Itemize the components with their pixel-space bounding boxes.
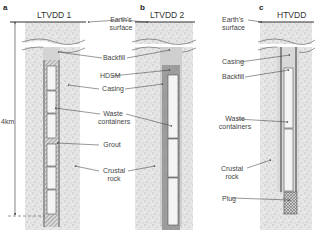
label-crustal-rock-ab: Crustalrock <box>100 167 128 183</box>
label-casing-ab: Casing <box>100 85 126 93</box>
depth-label: 4km <box>1 118 14 126</box>
diagram-canvas <box>0 0 325 233</box>
label-earth-surface-c: Earth'ssurface <box>222 16 245 32</box>
label-hdsm: HDSM <box>100 72 114 80</box>
panel-title-c: HTVDD <box>277 10 306 20</box>
panel-title-b: LTVDD 2 <box>150 10 184 20</box>
label-crustal-rock-c: Crustalrock <box>218 165 246 181</box>
panel-letter-c: c <box>259 3 263 12</box>
panel-letter-a: a <box>3 3 7 12</box>
panel-a-borehole <box>22 22 85 230</box>
label-waste-containers-c: Wastecontainers <box>218 115 252 131</box>
label-backfill-c: Backfill <box>222 73 244 81</box>
panel-b-borehole <box>132 22 196 230</box>
panel-c-borehole <box>258 22 315 230</box>
label-earth-surface-ab: Earth'ssurface <box>100 16 142 32</box>
panel-title-a: LTVDD 1 <box>37 10 71 20</box>
label-backfill-ab: Backfill <box>100 54 128 62</box>
label-casing-c: Casing <box>222 58 244 66</box>
label-plug: Plug <box>222 195 236 203</box>
panel-letter-b: b <box>140 3 145 12</box>
label-waste-containers-ab: Wastecontainers <box>98 110 128 126</box>
label-grout: Grout <box>100 141 124 149</box>
